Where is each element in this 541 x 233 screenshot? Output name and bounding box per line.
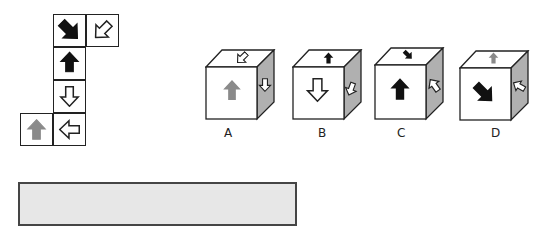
arrow-down-left-icon <box>87 15 118 46</box>
option-cube-a[interactable] <box>205 49 277 121</box>
option-cube-b[interactable] <box>292 49 364 121</box>
net-square-arrow-up <box>53 47 86 80</box>
net-square-arrow-up-gray <box>20 113 53 146</box>
net-square-arrow-down-right <box>53 14 86 47</box>
net-square-arrow-down <box>53 80 86 113</box>
option-label-c: C <box>397 126 405 140</box>
net-square-arrow-left <box>53 113 86 146</box>
arrow-up-icon <box>21 114 52 145</box>
option-label-b: B <box>318 126 326 140</box>
arrow-down-right-icon <box>54 15 85 46</box>
option-cube-d[interactable] <box>459 50 531 122</box>
arrow-left-icon <box>54 114 85 145</box>
option-label-d: D <box>491 126 500 140</box>
option-label-a: A <box>224 126 232 140</box>
net-square-arrow-down-left <box>86 14 119 47</box>
answer-input-box[interactable] <box>18 182 297 226</box>
option-cube-c[interactable] <box>374 47 446 121</box>
arrow-up-icon <box>54 48 85 79</box>
arrow-down-icon <box>54 81 85 112</box>
